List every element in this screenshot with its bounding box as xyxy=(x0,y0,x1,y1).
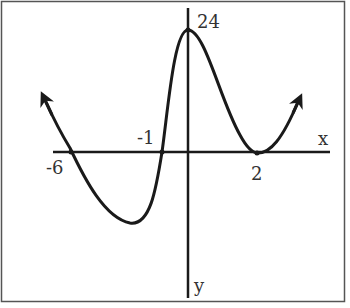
polynomial-graph: 24 -1 -6 2 x y xyxy=(0,0,350,308)
root-dot-neg6 xyxy=(69,150,74,155)
root-label-2: 2 xyxy=(251,163,262,184)
root-dot-2 xyxy=(255,151,260,156)
root-dot-neg1 xyxy=(160,150,165,155)
root-label-neg1: -1 xyxy=(137,127,155,148)
x-axis-label: x xyxy=(318,128,328,149)
y-axis-label: y xyxy=(193,275,205,296)
root-label-neg6: -6 xyxy=(46,157,64,178)
y-intercept-label: 24 xyxy=(197,11,220,32)
y-intercept-dot xyxy=(186,28,191,33)
